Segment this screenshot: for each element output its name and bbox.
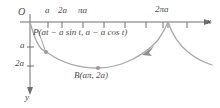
y-axis-label: y <box>25 93 29 102</box>
x-axis-label: x <box>207 17 211 26</box>
y-tick-label-2a: 2a <box>15 59 24 68</box>
x-tick-label-2-pi-a: 2πa <box>155 5 169 14</box>
cycloid-figure: O a 2a πa 2πa x y a 2a P(at − a sin t, a… <box>0 0 220 108</box>
y-tick-label-a: a <box>20 41 25 50</box>
curve-direction-arrowhead <box>142 46 154 56</box>
point-p-marker <box>44 50 48 54</box>
origin-label: O <box>18 7 25 17</box>
point-b-annotation: B(aπ, 2a) <box>74 71 108 80</box>
figure-canvas <box>0 0 220 108</box>
x-tick-label-a: a <box>45 6 50 15</box>
cycloid-arch-next <box>168 22 212 65</box>
x-tick-label-pi-a: πa <box>78 6 87 15</box>
x-tick-label-2a: 2a <box>58 6 67 15</box>
point-p-annotation: P(at − a sin t, a − a cos t) <box>33 28 127 37</box>
